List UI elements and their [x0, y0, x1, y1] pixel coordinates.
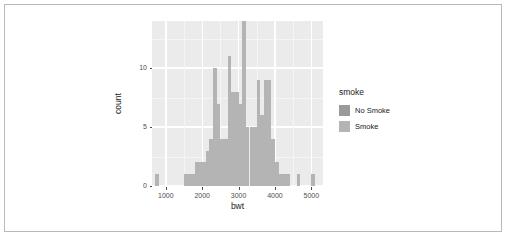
legend: smoke No SmokeSmoke	[339, 87, 429, 135]
legend-swatch	[339, 105, 350, 116]
y-tick-label: 10	[139, 64, 147, 72]
image-frame: 0510 10002000300040005000 bwt count smok…	[4, 4, 502, 232]
legend-item[interactable]: No Smoke	[339, 103, 429, 117]
gridline-major-vertical	[311, 21, 312, 186]
x-tick-mark	[202, 187, 203, 190]
x-tick-mark	[239, 187, 240, 190]
legend-swatch	[339, 121, 350, 132]
x-tick-mark	[311, 187, 312, 190]
x-tick-label: 4000	[267, 192, 283, 200]
legend-label: No Smoke	[355, 106, 390, 115]
plot-panel	[152, 21, 323, 186]
histogram-bar	[286, 174, 290, 186]
x-tick-label: 3000	[231, 192, 247, 200]
y-tick-label: 0	[143, 182, 147, 190]
gridline-minor-vertical	[184, 21, 185, 186]
gridline-minor-vertical	[293, 21, 294, 186]
legend-items: No SmokeSmoke	[339, 103, 429, 133]
legend-item[interactable]: Smoke	[339, 119, 429, 133]
x-tick-mark	[275, 187, 276, 190]
x-tick-label: 1000	[158, 192, 174, 200]
y-tick-label: 5	[143, 123, 147, 131]
gridline-major-vertical	[202, 21, 203, 186]
x-tick-label: 5000	[304, 192, 320, 200]
y-axis-label: count	[113, 21, 125, 186]
chart-screenshot: 0510 10002000300040005000 bwt count smok…	[0, 0, 508, 238]
histogram-bar	[155, 174, 159, 186]
x-axis-label: bwt	[152, 201, 323, 211]
legend-label: Smoke	[355, 122, 378, 131]
histogram-bar	[311, 174, 315, 186]
y-tick-mark	[150, 127, 153, 128]
y-tick-mark	[150, 68, 153, 69]
gridline-major-vertical	[165, 21, 166, 186]
x-tick-mark	[166, 187, 167, 190]
y-axis: 0510	[133, 21, 152, 186]
x-tick-label: 2000	[194, 192, 210, 200]
plot-area	[152, 21, 323, 186]
histogram-bar	[297, 174, 301, 186]
legend-title: smoke	[339, 87, 429, 97]
